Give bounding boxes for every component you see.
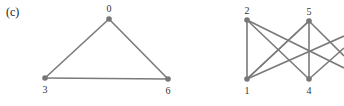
graph-diagram: (c) 0362514 <box>0 0 344 106</box>
node-4 <box>306 76 312 82</box>
edge-0-6 <box>109 19 168 79</box>
edge-0-3 <box>45 19 109 78</box>
node-3 <box>42 75 48 81</box>
node-label-6: 6 <box>166 85 171 96</box>
node-1 <box>244 76 250 82</box>
node-0 <box>106 16 112 22</box>
node-2 <box>244 17 250 23</box>
node-label-1: 1 <box>245 85 250 96</box>
node-label-3: 3 <box>43 84 48 95</box>
node-label-4: 4 <box>307 85 312 96</box>
node-5 <box>306 18 312 24</box>
node-label-0: 0 <box>107 3 112 14</box>
node-label-5: 5 <box>307 6 312 17</box>
edge-3-6 <box>45 78 168 79</box>
node-label-2: 2 <box>245 5 250 16</box>
panel-label: (c) <box>6 5 19 19</box>
node-6 <box>165 76 171 82</box>
